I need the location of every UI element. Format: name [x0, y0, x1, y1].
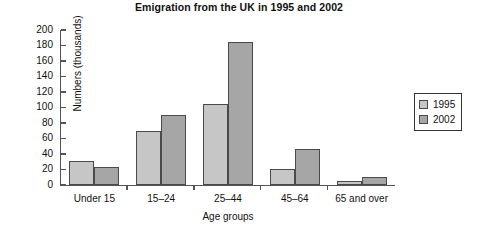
bar-1995[interactable] [203, 104, 228, 185]
bar-1995[interactable] [270, 169, 295, 185]
x-tick-mark [126, 185, 127, 190]
x-axis-category-label: 15–24 [147, 193, 175, 204]
bar-1995[interactable] [136, 131, 161, 185]
bar-2002[interactable] [295, 149, 320, 185]
bar-2002[interactable] [94, 167, 119, 185]
bar-group: 65 and over [328, 30, 395, 185]
legend-item-1995[interactable]: 1995 [419, 97, 455, 112]
plot-area: Numbers (thousands) 02040608010012014016… [60, 30, 395, 186]
x-axis-category-label: Under 15 [74, 193, 115, 204]
y-tick-label: 80 [42, 117, 53, 129]
y-tick-label: 40 [42, 148, 53, 160]
bar-pair [69, 30, 119, 185]
x-axis-category-label: 25–44 [214, 193, 242, 204]
y-tick-label: 160 [36, 55, 53, 67]
bar-2002[interactable] [362, 177, 387, 185]
bar-group: 15–24 [128, 30, 195, 185]
x-axis-title: Age groups [61, 211, 395, 222]
legend-item-2002[interactable]: 2002 [419, 112, 455, 127]
y-tick-label: 0 [47, 179, 53, 191]
bar-pair [136, 30, 186, 185]
bar-group: 45–64 [261, 30, 328, 185]
y-tick-label: 200 [36, 24, 53, 36]
bar-1995[interactable] [69, 161, 94, 185]
y-tick-label: 60 [42, 132, 53, 144]
x-axis-category-label: 45–64 [281, 193, 309, 204]
bar-pair [203, 30, 253, 185]
bar-pair [337, 30, 387, 185]
x-tick-mark [327, 185, 328, 190]
y-tick-label: 120 [36, 86, 53, 98]
y-tick-label: 180 [36, 39, 53, 51]
chart-legend: 19952002 [414, 93, 462, 131]
bar-group: 25–44 [195, 30, 262, 185]
y-tick-label: 140 [36, 70, 53, 82]
bar-groups: Under 1515–2425–4445–6465 and over [61, 30, 395, 185]
x-tick-mark [260, 185, 261, 190]
legend-label: 2002 [433, 114, 455, 125]
legend-swatch-icon [419, 100, 428, 109]
legend-swatch-icon [419, 115, 428, 124]
bar-2002[interactable] [161, 115, 186, 185]
bar-group: Under 15 [61, 30, 128, 185]
x-tick-mark [193, 185, 194, 190]
bar-2002[interactable] [228, 42, 253, 185]
x-axis-category-label: 65 and over [335, 193, 388, 204]
legend-label: 1995 [433, 99, 455, 110]
bar-1995[interactable] [337, 181, 362, 185]
bar-chart: Emigration from the UK in 1995 and 2002 … [0, 0, 478, 235]
y-tick-label: 20 [42, 163, 53, 175]
y-tick-label: 100 [36, 101, 53, 113]
bar-pair [270, 30, 320, 185]
